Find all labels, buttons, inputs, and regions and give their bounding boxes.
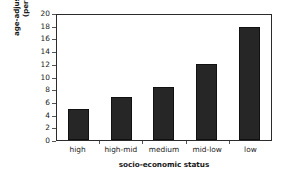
y-axis-tick-label: 20 (32, 10, 50, 18)
plot-area-frame (56, 14, 272, 141)
y-axis-tick-label: 10 (32, 74, 50, 82)
bars-container (57, 15, 271, 140)
y-axis-tick-label: 0 (32, 137, 50, 145)
y-axis-tick-label: 14 (32, 48, 50, 56)
x-axis-tick-label: medium (142, 145, 185, 157)
x-axis-tick-mark (186, 141, 187, 144)
y-axis-tick-label: 6 (32, 99, 50, 107)
x-axis-tick-label: high (56, 145, 99, 157)
y-axis-tick-label: 8 (32, 86, 50, 94)
x-axis-tick-mark (142, 141, 143, 144)
x-axis-tick-label: low (229, 145, 272, 157)
bar-slot (143, 15, 186, 140)
x-axis-tick-label: high-mid (99, 145, 142, 157)
bar-slot (100, 15, 143, 140)
y-axis-title: age-adjusted incidence (per 100,000) (8, 0, 34, 44)
x-axis-tick-mark (229, 141, 230, 144)
bar-slot (228, 15, 271, 140)
bar[interactable] (153, 87, 174, 140)
bar-slot (57, 15, 100, 140)
bar[interactable] (111, 97, 132, 140)
y-axis-tick-label: 18 (32, 23, 50, 31)
bar[interactable] (239, 27, 260, 140)
x-axis-tick-labels: highhigh-midmediummid-lowlow (56, 145, 272, 157)
x-axis-tick-mark (99, 141, 100, 144)
x-axis-tick-label: mid-low (186, 145, 229, 157)
x-axis-title: socio-economic status (56, 160, 272, 169)
y-axis-title-line-2: (per 100,000) (21, 0, 31, 17)
bar-slot (185, 15, 228, 140)
y-axis-tick-label: 2 (32, 124, 50, 132)
y-axis-tick-label: 4 (32, 112, 50, 120)
bar-chart-figure: age-adjusted incidence (per 100,000) 201… (0, 0, 286, 180)
y-axis-tick-label: 16 (32, 35, 50, 43)
y-axis-title-line-1: age-adjusted incidence (12, 0, 22, 36)
bar[interactable] (196, 64, 217, 140)
y-axis-tick-labels: 20181614121086420 (32, 0, 50, 180)
bar[interactable] (68, 109, 89, 140)
y-axis-tick-label: 12 (32, 61, 50, 69)
